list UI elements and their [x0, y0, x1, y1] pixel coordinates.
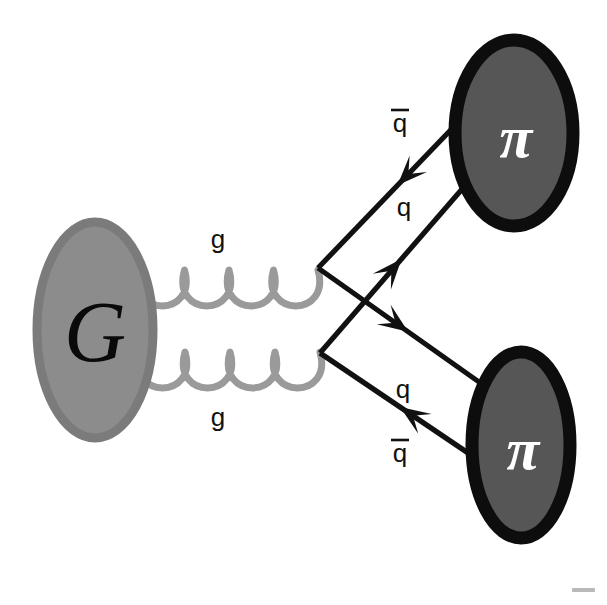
- pion-top-label: π: [500, 104, 535, 170]
- glueball-label: G: [64, 284, 126, 380]
- scan-corner-artifact: [572, 588, 595, 592]
- diagram-canvas: G π π g g q q q q: [0, 0, 607, 605]
- feynman-diagram-svg: G π π g g q q q q: [0, 0, 607, 605]
- label-quark-upper-to-bottom-pion: q: [396, 374, 410, 404]
- gluon-group: [138, 270, 321, 388]
- pion-top-blob: π: [455, 40, 573, 226]
- gluon-upper-coil: [138, 270, 319, 306]
- gluon-lower-label: g: [211, 402, 225, 432]
- label-antiquark-lower-to-bottom-pion: q: [393, 438, 407, 468]
- pion-bottom-label: π: [507, 416, 542, 482]
- label-antiquark-upper-to-top-pion: q: [393, 108, 407, 138]
- label-quark-lower-to-top-pion: q: [397, 192, 411, 222]
- gluon-lower-coil: [138, 352, 321, 388]
- gluon-label-group: g g: [211, 224, 225, 432]
- glueball-blob: G: [37, 222, 153, 438]
- gluon-upper-label: g: [211, 224, 225, 254]
- pion-bottom-blob: π: [472, 352, 570, 538]
